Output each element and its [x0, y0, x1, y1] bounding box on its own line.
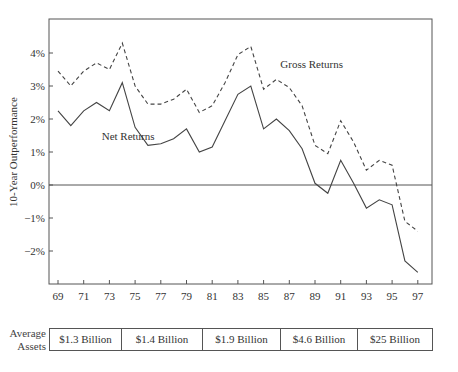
x-tick-label: 95	[387, 290, 399, 302]
average-assets-row: Average Assets $1.3 Billion $1.4 Billion…	[0, 326, 458, 356]
net-returns-line	[58, 83, 418, 273]
x-tick-label: 81	[207, 290, 218, 302]
x-tick-label: 89	[310, 290, 322, 302]
x-axis: 697173757779818385878991939597	[53, 280, 424, 302]
x-tick-label: 77	[155, 290, 167, 302]
y-axis-label: 10-Year Outperformance	[7, 97, 19, 207]
y-tick-label: 4%	[30, 47, 45, 59]
x-tick-label: 73	[104, 290, 116, 302]
x-tick-label: 91	[335, 290, 346, 302]
assets-cell: $1.3 Billion	[50, 329, 122, 350]
net-returns-label: Net Returns	[102, 130, 155, 142]
assets-cell: $1.9 Billion	[203, 329, 281, 350]
assets-cell: $1.4 Billion	[122, 329, 203, 350]
assets-label-line2: Assets	[0, 340, 46, 353]
x-tick-label: 83	[232, 290, 244, 302]
line-chart: 4%3%2%1%0%−1%−2% 69717375777981838587899…	[0, 0, 458, 326]
y-tick-label: −1%	[24, 212, 45, 224]
x-tick-label: 71	[78, 290, 89, 302]
plot-frame	[49, 19, 432, 284]
gross-returns-label: Gross Returns	[280, 58, 343, 70]
x-tick-label: 85	[258, 290, 270, 302]
x-tick-label: 75	[130, 290, 142, 302]
y-tick-label: 0%	[30, 179, 45, 191]
x-tick-label: 93	[361, 290, 373, 302]
x-tick-label: 79	[181, 290, 193, 302]
assets-cell: $25 Billion	[358, 329, 432, 350]
assets-cell: $4.6 Billion	[281, 329, 358, 350]
average-assets-label: Average Assets	[0, 327, 46, 353]
assets-label-line1: Average	[0, 327, 46, 340]
y-tick-label: 1%	[30, 146, 45, 158]
x-tick-label: 87	[284, 290, 296, 302]
x-tick-label: 97	[412, 290, 424, 302]
x-tick-label: 69	[53, 290, 65, 302]
assets-table: $1.3 Billion $1.4 Billion $1.9 Billion $…	[49, 328, 433, 351]
y-tick-label: 2%	[30, 113, 45, 125]
y-tick-label: −2%	[24, 245, 45, 257]
y-tick-label: 3%	[30, 80, 45, 92]
